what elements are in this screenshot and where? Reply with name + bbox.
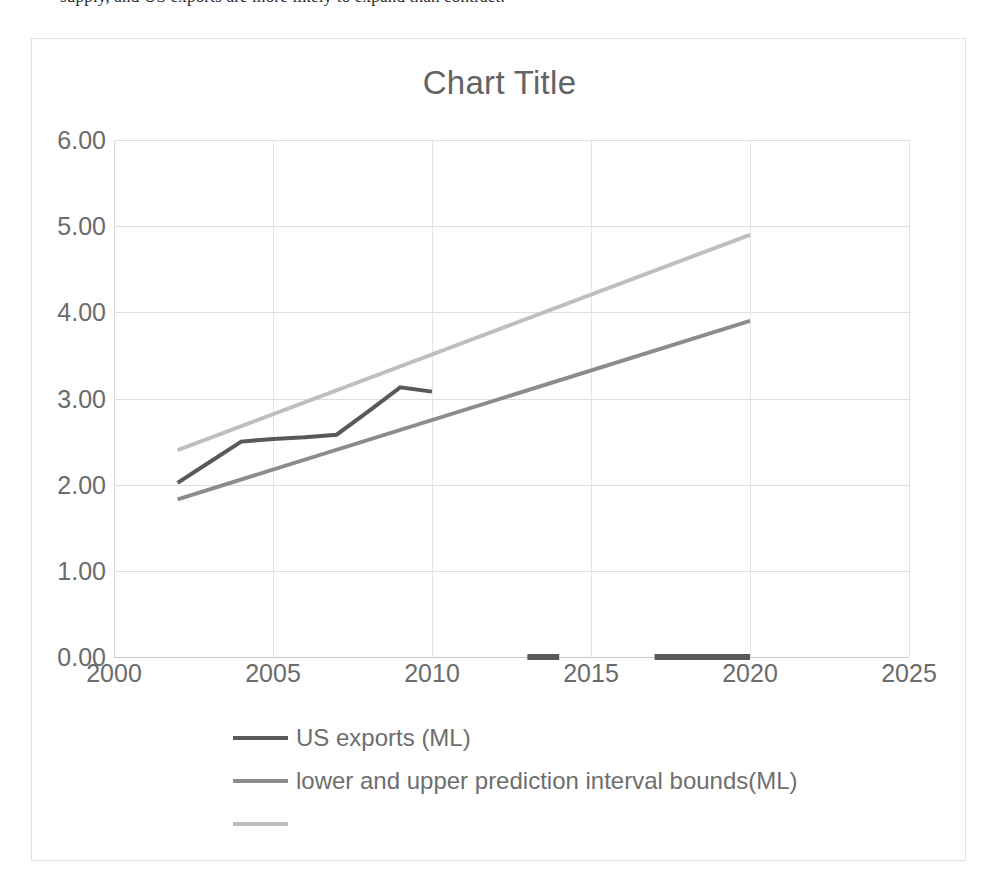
legend-swatch-line-icon (233, 822, 288, 826)
x-tick-label: 2020 (690, 661, 810, 686)
y-tick-label: 2.00 (16, 473, 106, 498)
legend-label: US exports (ML) (296, 726, 471, 750)
y-tick-label: 3.00 (16, 387, 106, 412)
y-tick-label: 6.00 (16, 128, 106, 153)
cropped-text-above-chart: supply, and US exports are more likely t… (0, 0, 998, 16)
series-lines (114, 140, 909, 657)
x-tick-label: 2005 (213, 661, 333, 686)
chart-title: Chart Title (32, 64, 967, 102)
legend-swatch-line-icon (233, 779, 288, 783)
plot-area (114, 140, 909, 657)
legend-item[interactable]: lower and upper prediction interval boun… (233, 766, 798, 796)
chart-frame: Chart Title 0.001.002.003.004.005.006.00… (31, 38, 966, 861)
legend-swatch-line-icon (233, 736, 288, 740)
x-tick-label: 2010 (372, 661, 492, 686)
x-tick-label: 2025 (849, 661, 969, 686)
series-line (178, 321, 750, 499)
y-tick-label: 1.00 (16, 559, 106, 584)
x-tick-label: 2000 (54, 661, 174, 686)
gridline-x-2025 (909, 140, 910, 657)
x-axis-ticks: 200020052010201520202025 (114, 661, 909, 701)
legend-label: lower and upper prediction interval boun… (296, 769, 798, 793)
legend-item[interactable]: US exports (ML) (233, 723, 471, 753)
gridline-y-0.00 (114, 657, 909, 658)
cropped-text: supply, and US exports are more likely t… (60, 0, 505, 7)
chart-page: supply, and US exports are more likely t… (0, 0, 998, 896)
legend-item[interactable] (233, 809, 296, 839)
series-line (178, 235, 750, 450)
y-axis-ticks: 0.001.002.003.004.005.006.00 (32, 140, 106, 657)
x-tick-label: 2015 (531, 661, 651, 686)
y-tick-label: 4.00 (16, 300, 106, 325)
y-tick-label: 5.00 (16, 214, 106, 239)
